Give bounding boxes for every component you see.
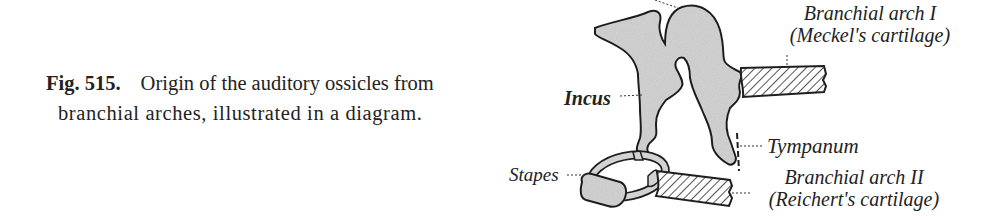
figure-caption: Fig. 515.Origin of the auditory ossicles… bbox=[46, 68, 506, 128]
caption-text-1: Origin of the auditory ossicles from bbox=[141, 72, 434, 94]
arch2-subtitle: (Reichert's cartilage) bbox=[754, 188, 954, 210]
arch1-subtitle: (Meckel's cartilage) bbox=[770, 24, 970, 46]
arch1-title: Branchial arch I bbox=[770, 2, 970, 24]
caption-line-2: branchial arches, illustrated in a diagr… bbox=[46, 98, 506, 128]
branchial-arch-2-bar bbox=[656, 171, 732, 206]
malleus-leader-line bbox=[655, 0, 678, 8]
caption-line-1: Fig. 515.Origin of the auditory ossicles… bbox=[46, 72, 434, 94]
label-branchial-arch-1: Branchial arch I (Meckel's cartilage) bbox=[770, 2, 970, 46]
tympanum-membrane-line bbox=[737, 133, 739, 171]
malleus-incus-shape bbox=[595, 6, 742, 165]
stapes-shape bbox=[581, 149, 670, 207]
arch2-title: Branchial arch II bbox=[754, 166, 954, 188]
label-branchial-arch-2: Branchial arch II (Reichert's cartilage) bbox=[754, 166, 954, 210]
branchial-arch-1-bar bbox=[741, 66, 826, 97]
figure-number: Fig. 515. bbox=[46, 72, 121, 94]
label-tympanum: Tympanum bbox=[767, 135, 859, 157]
label-stapes: Stapes bbox=[509, 164, 559, 186]
label-incus: Incus bbox=[564, 87, 611, 109]
ossicles-diagram: Incus Stapes Tympanum Branchial arch I (… bbox=[500, 0, 997, 221]
